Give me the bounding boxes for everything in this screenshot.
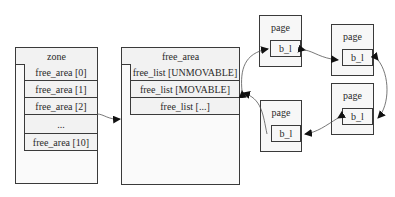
arrow-movable-to-page1: [242, 49, 268, 91]
arrow-page2-page3: [378, 60, 387, 118]
arrow-page4-movable: [243, 93, 267, 134]
arrow-page3-page4: [305, 118, 338, 134]
arrow-page1-page2: [305, 50, 338, 60]
arrow-zone-to-free-area: [97, 114, 120, 119]
link-arrows: [0, 0, 395, 197]
